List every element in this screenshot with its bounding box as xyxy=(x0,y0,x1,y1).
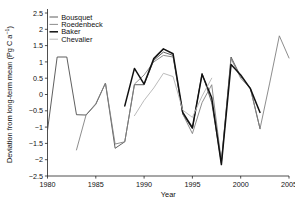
legend-label-chevalier: Chevalier xyxy=(61,35,93,44)
y-tick-label: 1.5 xyxy=(33,41,43,50)
y-tick-label: 1 xyxy=(39,58,43,67)
data-series-group xyxy=(48,36,290,165)
y-axis-title: Deviation from long-term mean (Pg C a−1) xyxy=(4,26,14,163)
x-tick-label: 2005 xyxy=(281,180,295,189)
y-tick-label: −0.5 xyxy=(29,106,43,115)
x-tick-label: 1980 xyxy=(40,180,56,189)
chart-figure: −2.5−2−1.5−1−0.500.511.522.5198019851990… xyxy=(0,0,295,198)
y-tick-label: −1.5 xyxy=(29,139,43,148)
y-tick-label: 0.5 xyxy=(33,74,43,83)
line-chart: −2.5−2−1.5−1−0.500.511.522.5198019851990… xyxy=(0,0,295,198)
y-tick-label: 2 xyxy=(39,25,43,34)
series-line-bousquet xyxy=(48,52,261,163)
x-tick-label: 1985 xyxy=(88,180,104,189)
x-tick-label: 2000 xyxy=(233,180,249,189)
y-tick-label: 0 xyxy=(39,90,43,99)
series-line-roedenbeck xyxy=(76,36,289,162)
chart-legend: BousquetRoedenbeckBakerChevalier xyxy=(50,13,104,44)
series-line-baker xyxy=(125,49,260,165)
y-tick-label: −1 xyxy=(35,123,43,132)
y-tick-label: −2 xyxy=(35,155,43,164)
x-axis-title: Year xyxy=(161,190,176,199)
x-tick-label: 1995 xyxy=(184,180,200,189)
x-tick-label: 1990 xyxy=(136,180,152,189)
y-tick-label: 2.5 xyxy=(33,9,43,18)
